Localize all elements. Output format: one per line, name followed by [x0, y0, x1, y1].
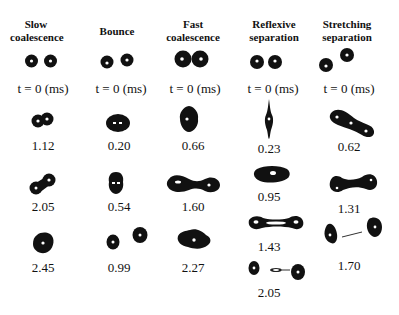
time-label: 1.60 [160, 200, 226, 214]
time-label: t = 0 (ms) [10, 82, 76, 96]
time-label: 0.62 [316, 140, 382, 154]
time-label: t = 0 (ms) [88, 82, 154, 96]
header-bounce: Bounce [90, 18, 144, 38]
droplet-bounce-row2 [106, 170, 126, 196]
time-label: 0.95 [236, 190, 302, 204]
droplet-stretching-row2 [326, 170, 380, 198]
header-line1: Reflexive [244, 18, 304, 31]
droplet-reflexive-row1 [262, 98, 276, 140]
time-label: t = 0 (ms) [162, 82, 228, 96]
droplet-pair-reflexive-t0 [247, 52, 287, 72]
droplet-pair-stretching-t0 [318, 44, 358, 74]
time-label: 0.66 [160, 139, 226, 153]
header-line1: Fast [163, 18, 223, 31]
time-label: t = 0 (ms) [316, 82, 382, 96]
droplet-stretching-row3 [320, 213, 386, 255]
header-line1: Slow [10, 18, 62, 31]
time-label: 2.45 [10, 261, 76, 275]
header-slow-coalescence: Slow coalescence [10, 18, 62, 44]
header-line2: coalescence [163, 31, 223, 44]
time-label: 2.27 [160, 261, 226, 275]
droplet-pair-fast-t0 [173, 49, 215, 69]
time-label: 1.12 [10, 139, 76, 153]
time-label: 0.23 [236, 142, 302, 156]
time-label: 1.70 [316, 259, 382, 273]
header-stretching-separation: Stretching separation [316, 18, 378, 44]
header-reflexive-separation: Reflexive separation [244, 18, 304, 44]
droplet-fast-row2 [165, 170, 223, 196]
droplet-slow-row2 [27, 172, 59, 196]
time-label: 0.20 [86, 139, 152, 153]
time-label: 2.05 [236, 286, 302, 300]
droplet-pair-bounce-t0 [99, 51, 139, 71]
time-label: 2.05 [10, 200, 76, 214]
droplet-bounce-row1 [104, 112, 134, 134]
time-label: 1.43 [236, 240, 302, 254]
time-label: 0.99 [86, 261, 152, 275]
droplet-slow-row3 [31, 230, 57, 256]
droplet-pair-slow-t0 [24, 52, 64, 70]
droplet-fast-row3 [174, 226, 214, 252]
header-line1: Stretching [316, 18, 378, 31]
time-label: t = 0 (ms) [240, 82, 306, 96]
header-line2: separation [316, 31, 378, 44]
header-line2: separation [244, 31, 304, 44]
droplet-pair-bounce-row3 [104, 225, 152, 253]
droplet-fast-row1 [176, 104, 202, 134]
time-label: 0.54 [86, 200, 152, 214]
droplet-stretching-row1 [326, 106, 378, 140]
droplet-slow-row1 [30, 110, 60, 130]
header-line2: coalescence [10, 31, 62, 44]
droplet-reflexive-row4 [246, 259, 312, 283]
droplet-reflexive-row2 [252, 163, 292, 185]
droplet-reflexive-row3 [245, 212, 307, 234]
header-fast-coalescence: Fast coalescence [163, 18, 223, 44]
header-line2: Bounce [90, 25, 144, 38]
